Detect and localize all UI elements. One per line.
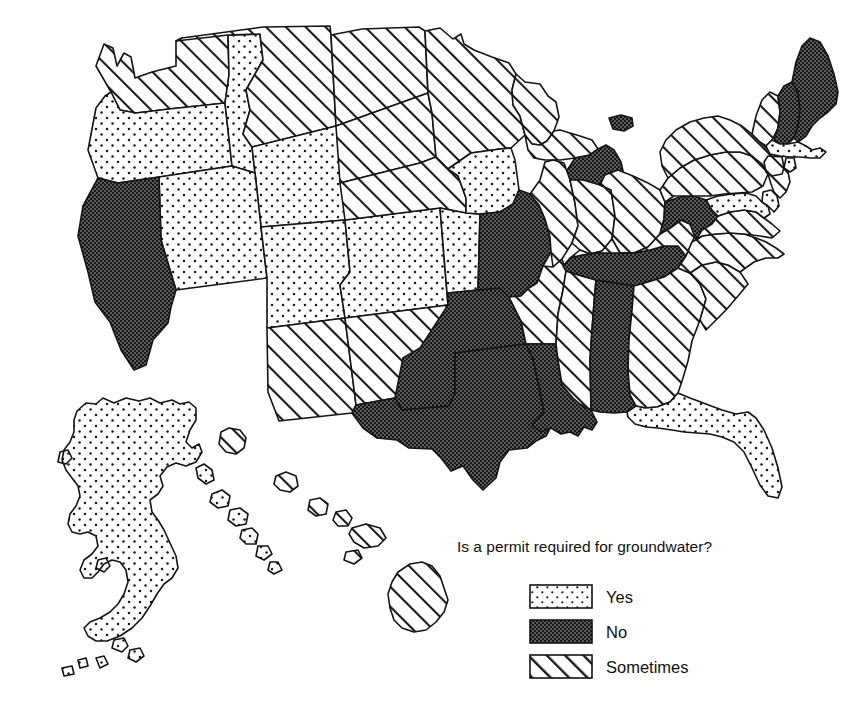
legend-title: Is a permit required for groundwater? bbox=[457, 538, 712, 555]
state-HI-big bbox=[388, 562, 448, 632]
state-MI-isle bbox=[609, 115, 633, 131]
state-AZ bbox=[267, 318, 356, 421]
state-ME bbox=[792, 38, 838, 142]
legend-swatch-sometimes bbox=[530, 655, 592, 678]
state-HI-3 bbox=[308, 498, 328, 516]
state-HI-4 bbox=[333, 510, 352, 526]
state-CT bbox=[764, 156, 784, 176]
state-UT bbox=[261, 220, 350, 328]
state-AK bbox=[58, 398, 282, 676]
state-FL bbox=[627, 393, 782, 498]
legend: Is a permit required for groundwater? Ye… bbox=[457, 538, 712, 678]
state-HI-6 bbox=[344, 550, 362, 564]
legend-label-no: No bbox=[606, 623, 627, 641]
state-HI-2 bbox=[274, 472, 298, 492]
legend-label-yes: Yes bbox=[606, 588, 633, 606]
states-layer bbox=[58, 26, 838, 676]
legend-swatch-yes bbox=[530, 585, 592, 608]
state-CO bbox=[340, 208, 448, 318]
state-HI-5 bbox=[349, 524, 386, 548]
state-HI bbox=[219, 428, 246, 454]
legend-label-sometimes: Sometimes bbox=[606, 658, 689, 676]
state-MA bbox=[766, 140, 826, 158]
state-RI bbox=[784, 158, 796, 172]
state-GA bbox=[628, 268, 706, 408]
legend-swatch-no bbox=[530, 620, 592, 643]
state-NV bbox=[159, 166, 267, 290]
us-map: Is a permit required for groundwater? Ye… bbox=[0, 0, 860, 707]
groundwater-permit-map-figure: Is a permit required for groundwater? Ye… bbox=[0, 0, 860, 707]
